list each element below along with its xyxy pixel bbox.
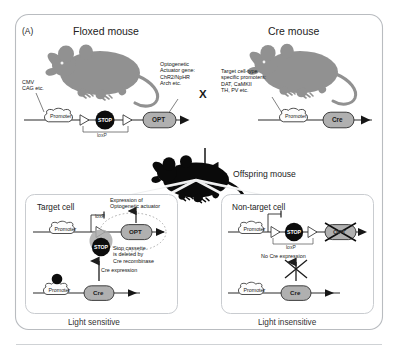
cmv-cag-note: CMV CAG etc.: [22, 79, 44, 92]
non-target-opt-label: OPT: [333, 228, 346, 235]
cre-promoter-label: Promoter: [285, 113, 307, 119]
diagram-canvas: STOP STOP STOP: [0, 0, 398, 348]
floxed-stop-label: STOP: [98, 117, 113, 123]
expression-note: Expression of Optogenetic actuator: [110, 197, 160, 210]
non-target-cre-promoter-label: Promoter: [244, 287, 266, 293]
non-target-stop-label: STOP: [287, 229, 302, 235]
floxed-mouse-title: Floxed mouse: [73, 25, 139, 37]
cross-symbol: X: [199, 88, 207, 102]
target-opt-label: OPT: [129, 228, 142, 235]
cre-promoter-note: Target cell-type specific promoters: DAT…: [221, 68, 266, 94]
offspring-mouse-title: Offspring mouse: [233, 169, 296, 179]
non-target-cre-gene-label: Cre: [290, 289, 300, 296]
target-cre-gene-label: Cre: [93, 289, 103, 296]
non-target-promoter-label: Promoter: [244, 226, 266, 232]
figure-panel-a: STOP STOP STOP (A) Floxed mouse Cre mous…: [0, 0, 398, 348]
target-cre-promoter-label: Promoter: [49, 287, 71, 293]
non-target-cell-title: Non-target cell: [232, 203, 285, 213]
cre-expression-note: Cre expression: [101, 267, 137, 273]
target-promoter-label: Promoter: [55, 226, 77, 232]
target-loxp-label: loxP: [95, 214, 105, 220]
panel-label: (A): [22, 27, 33, 37]
target-stop-label: STOP: [94, 244, 109, 250]
actuator-gene-note: Optogenetic Actuator gene: ChR2/NpHR Arc…: [160, 61, 195, 87]
light-sensitive-caption: Light sensitive: [68, 318, 120, 328]
cre-gene-label: Cre: [332, 116, 343, 124]
floxed-opt-label: OPT: [152, 116, 165, 124]
floxed-promoter-label: Promoter: [50, 113, 72, 119]
floxed-loxp-label: loxP: [97, 133, 107, 139]
light-insensitive-caption: Light insensitive: [258, 318, 316, 328]
no-cre-expression-note: No Cre expression: [261, 253, 306, 259]
cre-mouse-title: Cre mouse: [268, 25, 319, 37]
deletion-note: Stop cassette is deleted by Cre recombin…: [113, 245, 154, 264]
target-cell-title: Target cell: [37, 203, 74, 213]
non-target-loxp-label: loxP: [286, 245, 296, 251]
